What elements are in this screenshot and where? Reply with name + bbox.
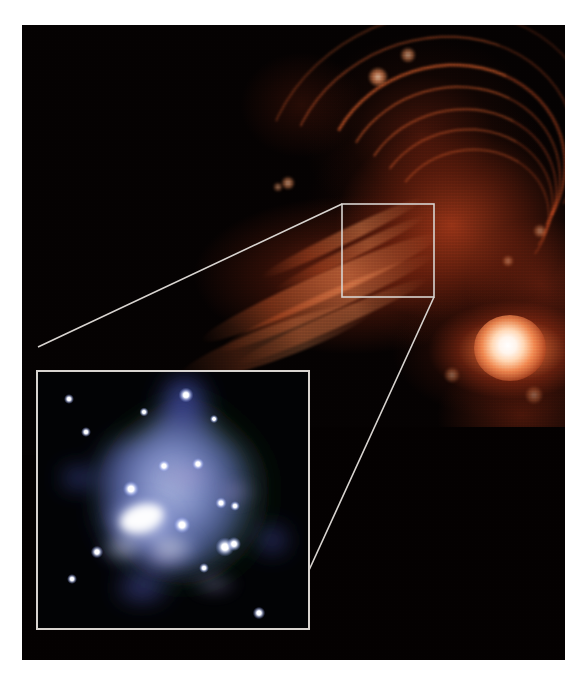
point-source-core [232,542,237,547]
sky-image-frame [22,25,565,660]
point-source-core [183,392,188,397]
point-source-core [233,504,236,507]
point-source-core [128,486,134,492]
point-source-core [257,611,261,615]
point-source-core [213,418,216,421]
inset-zoom-panel [36,370,310,630]
point-source-core [162,464,166,468]
region-of-interest-box [342,204,434,297]
point-source-core [179,522,185,528]
leader-line [38,204,342,347]
figure-caption [22,664,565,682]
point-source-core [219,501,223,505]
point-source-core [202,566,205,569]
point-source-core [70,577,73,580]
point-source-core [95,550,99,554]
point-source-core [142,410,145,413]
leader-line [294,297,434,603]
inset-nebula-rendering [38,372,304,624]
point-source-core [67,397,70,400]
point-source-core [84,430,87,433]
figure-root [0,0,586,684]
point-source-core [196,462,200,466]
